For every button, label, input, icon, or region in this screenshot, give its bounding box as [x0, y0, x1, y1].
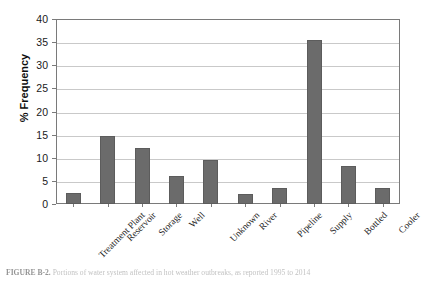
y-axis-tick-label: 15 — [36, 129, 48, 141]
y-axis-tick-label: 20 — [36, 106, 48, 118]
bar — [66, 193, 81, 204]
x-axis-tick-label: River — [257, 210, 279, 232]
x-axis-tick-mark — [280, 204, 281, 207]
bar — [375, 188, 390, 204]
x-axis-tick-label: Well — [188, 210, 208, 230]
y-axis-tick-label: 40 — [36, 13, 48, 25]
bar-chart: 0510152025303540 % Frequency Treatment P… — [0, 0, 414, 262]
x-axis-tick-mark — [73, 204, 74, 207]
bar — [169, 176, 184, 204]
bar — [272, 188, 287, 204]
x-axis-tick-mark — [142, 204, 143, 207]
x-axis-tick-label: Supply — [328, 210, 354, 236]
y-axis-tick-label: 10 — [36, 152, 48, 164]
x-axis-tick-mark — [176, 204, 177, 207]
figure-caption-text: FIGURE B-2. Portions of water system aff… — [6, 268, 410, 278]
bar — [100, 136, 115, 204]
y-axis-tick-label: 5 — [42, 175, 48, 187]
bar — [307, 40, 322, 204]
x-axis-tick-mark — [314, 204, 315, 207]
bars-layer — [56, 19, 400, 204]
y-axis-tick-label: 35 — [36, 36, 48, 48]
x-axis-tick-mark — [383, 204, 384, 207]
x-axis: Treatment PlantReservoirStorageWellUnkno… — [56, 206, 400, 262]
x-axis-tick-mark — [211, 204, 212, 207]
bar — [238, 194, 253, 204]
x-axis-tick-label: Pipeline — [295, 210, 324, 239]
y-axis-tick-label: 0 — [42, 198, 48, 210]
y-axis-tick-label: 30 — [36, 59, 48, 71]
x-axis-tick-label: Unknown — [228, 210, 262, 244]
x-axis-tick-mark — [348, 204, 349, 207]
y-axis-tick-label: 25 — [36, 82, 48, 94]
x-axis-tick-label: Cooler — [396, 210, 421, 235]
x-axis-tick-label: Bottled — [363, 210, 390, 237]
y-axis-tick-mark — [52, 204, 56, 205]
x-axis-tick-mark — [108, 204, 109, 207]
bar — [135, 148, 150, 204]
bar — [341, 166, 356, 204]
x-axis-tick-label: Storage — [157, 210, 185, 238]
bar — [203, 160, 218, 204]
figure-caption: FIGURE B-2. Portions of water system aff… — [6, 268, 410, 282]
x-axis-tick-mark — [245, 204, 246, 207]
y-axis-title: % Frequency — [18, 33, 30, 143]
